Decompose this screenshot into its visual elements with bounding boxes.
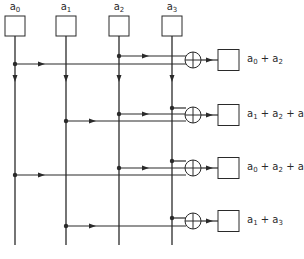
input-register-a0 <box>5 16 25 36</box>
output-register-1 <box>218 50 239 71</box>
arrow-down-icon <box>117 75 122 82</box>
junction-dot <box>13 62 17 66</box>
input-register-a2 <box>109 16 129 36</box>
input-register-a1 <box>56 16 76 36</box>
input-register-a3 <box>162 16 182 36</box>
arrow-right-icon <box>89 119 96 124</box>
output-label-3: a0 + a2 + a3 <box>247 161 304 176</box>
junction-dot <box>117 166 121 170</box>
arrow-right-icon <box>206 166 213 171</box>
arrow-down-icon <box>170 75 175 82</box>
junction-dot <box>170 216 174 220</box>
arrow-right-icon <box>142 166 149 171</box>
arrow-right-icon <box>89 224 96 229</box>
arrow-right-icon <box>142 54 149 59</box>
output-label-1: a0 + a2 <box>247 53 283 68</box>
arrow-down-icon <box>64 75 69 82</box>
arrow-right-icon <box>206 113 213 118</box>
arrow-right-icon <box>142 112 149 117</box>
input-label-a3: a3 <box>167 1 178 16</box>
output-register-4 <box>218 211 239 232</box>
input-label-a2: a2 <box>114 1 125 16</box>
output-register-2 <box>218 105 239 126</box>
input-label-a0: a0 <box>10 1 21 16</box>
arrow-down-icon <box>13 75 18 82</box>
junction-dot <box>13 173 17 177</box>
junction-dot <box>117 54 121 58</box>
arrow-right-icon <box>206 58 213 63</box>
output-label-2: a1 + a2 + a3 <box>247 108 304 123</box>
junction-dot <box>64 224 68 228</box>
junction-dot <box>117 112 121 116</box>
output-label-4: a1 + a3 <box>247 214 283 229</box>
junction-dot <box>170 106 174 110</box>
junction-dot <box>170 159 174 163</box>
junction-dot <box>64 119 68 123</box>
arrow-right-icon <box>38 62 45 67</box>
output-register-3 <box>218 158 239 179</box>
arrow-right-icon <box>206 219 213 224</box>
arrow-right-icon <box>38 173 45 178</box>
input-label-a1: a1 <box>61 1 72 16</box>
